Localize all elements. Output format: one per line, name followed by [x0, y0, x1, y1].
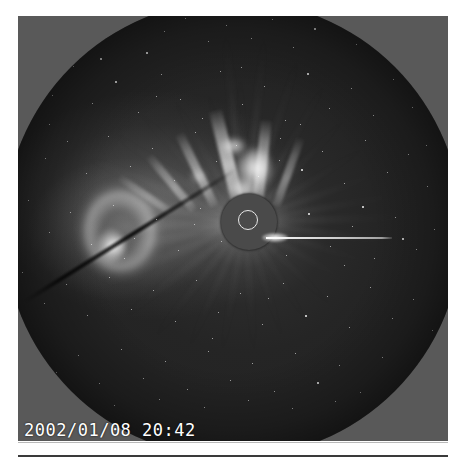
- star-point: [387, 172, 388, 173]
- star-point: [100, 58, 102, 60]
- star-point: [308, 213, 310, 215]
- star-point: [314, 28, 316, 30]
- star-point: [156, 96, 157, 97]
- star-point: [164, 31, 165, 32]
- star-point: [174, 180, 175, 181]
- star-point: [56, 372, 57, 373]
- star-point: [242, 104, 243, 105]
- star-point: [159, 399, 160, 400]
- star-point: [295, 353, 296, 354]
- star-point: [409, 397, 410, 398]
- star-point: [373, 115, 374, 116]
- star-point: [252, 363, 253, 364]
- star-point: [130, 166, 131, 167]
- star-point: [226, 25, 227, 26]
- star-point: [374, 258, 375, 259]
- star-point: [268, 298, 269, 299]
- star-point: [121, 349, 122, 350]
- star-point: [283, 283, 284, 284]
- star-point: [152, 148, 153, 149]
- star-point: [49, 232, 50, 233]
- star-point: [156, 219, 157, 220]
- star-point: [124, 258, 125, 259]
- star-point: [114, 405, 115, 406]
- star-point: [330, 246, 331, 247]
- star-point: [92, 103, 93, 104]
- star-point: [113, 205, 114, 206]
- star-point: [300, 124, 301, 125]
- star-point: [251, 38, 252, 39]
- star-point: [221, 241, 222, 242]
- star-point: [230, 380, 231, 381]
- star-point: [426, 145, 427, 146]
- star-point: [73, 66, 74, 67]
- star-point: [344, 265, 345, 266]
- star-point: [301, 169, 303, 171]
- star-point: [382, 357, 383, 358]
- star-point: [305, 315, 307, 317]
- star-point: [28, 200, 29, 201]
- star-point: [187, 389, 188, 390]
- star-point: [138, 112, 139, 113]
- star-point: [413, 33, 414, 34]
- plate-bottom-rule: [18, 442, 448, 443]
- star-point: [432, 330, 433, 331]
- star-point: [195, 132, 196, 133]
- star-point: [45, 158, 46, 159]
- star-point: [161, 74, 162, 75]
- star-point: [95, 36, 96, 37]
- screenshot-root: 2002/01/08 20:42: [0, 0, 463, 461]
- star-point: [293, 47, 294, 48]
- star-point: [34, 344, 35, 345]
- star-point: [185, 18, 186, 19]
- star-point: [286, 255, 287, 256]
- star-point: [52, 95, 53, 96]
- star-point: [428, 62, 429, 63]
- star-point: [204, 407, 205, 408]
- star-point: [109, 277, 110, 278]
- coronagraph-image-plate: 2002/01/08 20:42: [18, 16, 448, 441]
- observation-timestamp: 2002/01/08 20:42: [24, 420, 196, 440]
- star-point: [351, 88, 352, 89]
- star-point: [349, 327, 350, 328]
- star-point: [212, 338, 213, 339]
- star-point: [86, 173, 87, 174]
- star-point: [87, 315, 88, 316]
- star-point: [392, 318, 393, 319]
- star-point: [200, 208, 201, 209]
- star-point: [108, 136, 109, 137]
- star-point: [240, 293, 241, 294]
- star-point: [216, 161, 217, 162]
- occulter-support-pylon: [266, 237, 392, 239]
- star-point: [378, 409, 379, 410]
- star-point: [395, 217, 396, 218]
- star-point: [178, 250, 179, 251]
- star-point: [208, 41, 209, 42]
- star-point: [22, 272, 23, 273]
- star-point: [115, 81, 117, 83]
- star-point: [408, 154, 409, 155]
- star-point: [236, 145, 237, 146]
- star-point: [362, 206, 364, 208]
- star-point: [180, 99, 181, 100]
- star-point: [122, 20, 123, 21]
- star-point: [322, 151, 323, 152]
- star-point: [378, 26, 379, 27]
- star-point: [434, 229, 435, 230]
- star-point: [175, 321, 176, 322]
- star-point: [264, 86, 265, 87]
- star-point: [49, 124, 50, 125]
- star-point: [274, 391, 275, 392]
- occulting-disk: [221, 194, 277, 250]
- star-point: [67, 141, 68, 142]
- star-point: [66, 284, 67, 285]
- star-point: [241, 67, 242, 68]
- star-point: [427, 186, 428, 187]
- star-point: [393, 79, 394, 80]
- star-point: [153, 290, 154, 291]
- star-point: [134, 238, 135, 239]
- star-point: [196, 280, 197, 281]
- star-point: [131, 309, 132, 310]
- star-point: [402, 385, 403, 386]
- star-point: [352, 226, 353, 227]
